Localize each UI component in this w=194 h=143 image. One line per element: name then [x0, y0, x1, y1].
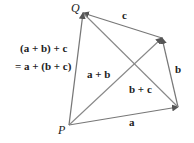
label-a-plus-b: a + b: [87, 69, 110, 80]
label-b-plus-c: b + c: [129, 84, 152, 95]
point-label-q: Q: [71, 2, 80, 14]
point-label-p: P: [58, 124, 65, 136]
label-a: a: [129, 117, 135, 128]
label-b: b: [175, 64, 181, 75]
vector-diagram: Q P c b a a + b b + c (a + b) + c = a + …: [0, 0, 194, 143]
equation-line-1: (a + b) + c: [20, 43, 67, 54]
label-c: c: [122, 10, 127, 21]
equation-line-2: = a + (b + c): [15, 61, 71, 72]
